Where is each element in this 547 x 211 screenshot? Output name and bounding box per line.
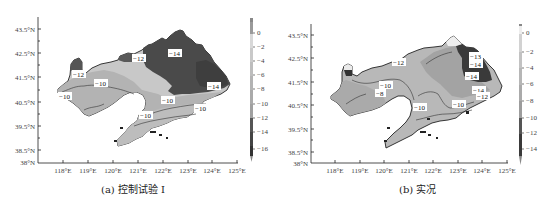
svg-text:−13: −13 [470,53,481,61]
panel-a-y-tick-labels: 43.5°N 42.5°N 41.5°N 40.5°N 39.5°N 38.5°… [15,26,35,167]
svg-text:−2: −2 [257,43,265,51]
svg-text:−12: −12 [257,114,268,122]
svg-text:40.5°N: 40.5°N [15,99,35,107]
svg-text:−2: −2 [526,48,534,56]
svg-text:122°E: 122°E [154,167,172,175]
svg-text:−10: −10 [59,93,70,101]
svg-text:125°E: 125°E [498,167,516,175]
svg-text:−14: −14 [208,83,219,91]
svg-text:−14: −14 [257,128,268,136]
svg-text:−12: −12 [73,71,84,79]
svg-text:−4: −4 [526,64,534,72]
svg-text:43.5°N: 43.5°N [15,26,35,34]
svg-text:−12: −12 [526,129,537,137]
svg-text:−10: −10 [140,112,151,120]
svg-text:120°E: 120°E [375,167,393,175]
panel-a-caption: (a) 控制试验 I [101,181,165,196]
panel-b-y-tick-labels: 43.5°N 42.5°N 41.5°N 40.5°N 39.5°N 38.5°… [288,32,308,168]
svg-text:43.5°N: 43.5°N [288,32,308,40]
svg-text:124°E: 124°E [203,167,221,175]
svg-text:−10: −10 [526,114,537,122]
svg-text:−12: −12 [133,55,144,63]
svg-text:39.5°N: 39.5°N [15,123,35,131]
panel-a-map: −14 −14 −12 −12 −10 −10 −10 −10 −10 [58,30,230,146]
svg-text:0: 0 [257,29,261,37]
svg-text:−10: −10 [453,101,464,109]
svg-text:118°E: 118°E [326,167,343,175]
svg-text:42.5°N: 42.5°N [15,50,35,58]
svg-text:−6: −6 [257,71,265,79]
svg-text:125°E: 125°E [228,167,246,175]
svg-text:−8: −8 [526,97,534,105]
svg-text:119°E: 119°E [351,167,368,175]
svg-text:−14: −14 [526,145,537,153]
svg-text:0: 0 [526,29,530,37]
panel-a-coast-band [117,103,204,146]
svg-text:122°E: 122°E [424,167,442,175]
svg-text:38.5°N: 38.5°N [288,149,308,157]
svg-text:−10: −10 [162,97,173,105]
svg-text:−8: −8 [376,90,384,98]
svg-text:−10: −10 [95,80,106,88]
svg-text:121°E: 121°E [129,167,147,175]
svg-text:38.5°N: 38.5°N [15,147,35,155]
svg-text:120°E: 120°E [104,167,122,175]
panel-a-colorbar: 0 −2 −4 −6 −8 −10 −12 −14 −16 [250,18,268,162]
svg-text:123°E: 123°E [179,167,197,175]
panel-b-colorbar: 0 −2 −4 −6 −8 −10 −12 −14 [519,24,537,165]
svg-text:119°E: 119°E [79,167,96,175]
svg-text:−14: −14 [169,50,180,58]
svg-text:124°E: 124°E [473,167,491,175]
svg-text:−8: −8 [257,85,265,93]
svg-text:−16: −16 [257,145,268,153]
svg-text:118°E: 118°E [54,167,71,175]
svg-text:−14: −14 [466,73,477,81]
panel-a-nw-patch [70,58,82,72]
svg-text:−12: −12 [393,59,404,67]
svg-text:41.5°N: 41.5°N [288,79,308,87]
panel-a-x-tick-labels: 118°E 119°E 120°E 121°E 122°E 123°E 124°… [54,167,245,175]
svg-text:−10: −10 [195,105,206,113]
svg-text:−10: −10 [414,104,425,112]
panel-b-x-tick-labels: 118°E 119°E 120°E 121°E 122°E 123°E 124°… [326,167,515,175]
svg-text:38°N: 38°N [293,160,308,168]
svg-text:−10: −10 [257,100,268,108]
svg-text:121°E: 121°E [400,167,418,175]
svg-text:38°N: 38°N [20,159,35,167]
svg-text:−4: −4 [257,57,265,65]
svg-text:−10: −10 [380,82,391,90]
svg-text:42.5°N: 42.5°N [288,55,308,63]
svg-text:40.5°N: 40.5°N [288,102,308,110]
panel-b-caption: (b) 实况 [399,181,436,196]
svg-text:41.5°N: 41.5°N [15,74,35,82]
svg-text:123°E: 123°E [449,167,467,175]
svg-text:−12: −12 [477,93,488,101]
panel-b-map: −13 −14 −14 −14 −12 −12 −10 −8 −10 −10 [331,36,502,148]
svg-text:−6: −6 [526,80,534,88]
svg-text:−14: −14 [470,61,481,69]
svg-text:39.5°N: 39.5°N [288,126,308,134]
